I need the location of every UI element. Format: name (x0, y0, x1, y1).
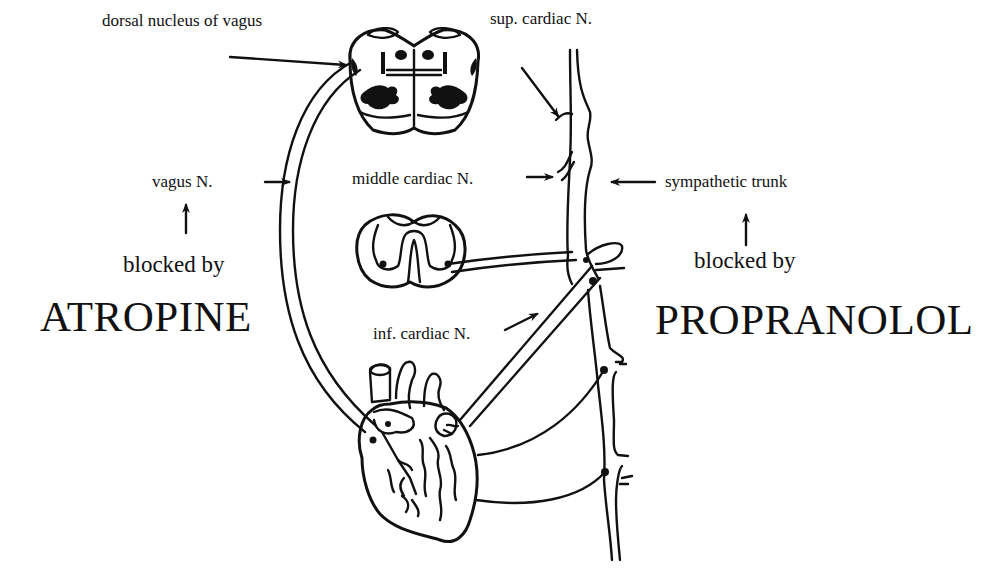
arrow-inf-cardiac (505, 314, 537, 330)
vagus-nerve (280, 62, 375, 432)
postganglionic-fiber-upper (478, 370, 604, 455)
label-middle-cardiac-nerve: middle cardiac N. (352, 170, 473, 187)
arrow-dorsal-nucleus (230, 57, 346, 65)
inf-cardiac-nerve (460, 266, 592, 420)
postganglionic-fiber-lower (476, 472, 605, 503)
label-dorsal-nucleus-of-vagus: dorsal nucleus of vagus (102, 12, 262, 29)
diagram-drawing (0, 0, 996, 568)
label-vagus-nerve: vagus N. (152, 173, 212, 190)
label-blocked-by-left: blocked by (123, 253, 225, 276)
label-sympathetic-trunk: sympathetic trunk (665, 173, 787, 190)
arrow-sup-cardiac (522, 68, 558, 116)
sympathetic-chain (556, 50, 632, 560)
spinal-cord-section (357, 215, 465, 287)
label-sup-cardiac-nerve: sup. cardiac N. (490, 10, 592, 27)
label-propranolol: PROPRANOLOL (655, 298, 974, 341)
heart (359, 362, 477, 542)
label-atropine: ATROPINE (40, 295, 252, 338)
label-inf-cardiac-nerve: inf. cardiac N. (373, 325, 470, 342)
diagram-canvas: dorsal nucleus of vagus sup. cardiac N. … (0, 0, 996, 568)
medulla-section (350, 28, 479, 133)
label-blocked-by-right: blocked by (694, 249, 796, 272)
